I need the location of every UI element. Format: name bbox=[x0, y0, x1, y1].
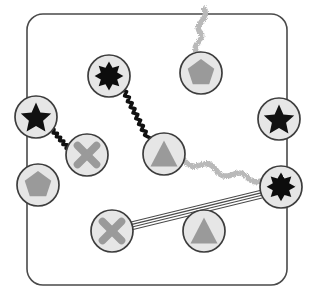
pentagon-node-left[interactable] bbox=[17, 164, 59, 206]
cross-node-bottom[interactable] bbox=[91, 210, 133, 252]
8-point-star-node-top[interactable] bbox=[88, 55, 130, 97]
triangle-node-center[interactable] bbox=[143, 133, 185, 175]
triangle-node-bottom[interactable] bbox=[183, 210, 225, 252]
star8-icon bbox=[267, 172, 296, 201]
8-point-star-node-right[interactable] bbox=[260, 166, 302, 208]
5-point-star-node-right[interactable] bbox=[258, 98, 300, 140]
diagram-canvas bbox=[0, 0, 314, 303]
pentagon-node-top[interactable] bbox=[180, 52, 222, 94]
node-link-diagram bbox=[0, 0, 314, 303]
5-point-star-node-left[interactable] bbox=[15, 96, 57, 138]
cross-node-left[interactable] bbox=[66, 134, 108, 176]
star8-icon bbox=[95, 62, 124, 91]
